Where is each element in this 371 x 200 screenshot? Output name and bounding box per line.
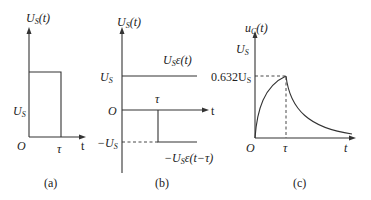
panel-a: US(t) US O τ t (a) <box>13 11 86 190</box>
y-axis-arrow-icon <box>27 27 32 34</box>
tau-label: τ <box>155 92 160 106</box>
discharging-curve <box>286 76 352 134</box>
y-axis-label: uC(t) <box>245 21 268 36</box>
x-axis-arrow-icon <box>202 108 209 113</box>
figure-canvas: US(t) US O τ t (a) US(t) USε(t) US τ O <box>0 0 371 200</box>
step-label: USε(t) <box>163 53 192 68</box>
negative-level-label: −US <box>97 136 118 151</box>
caption-c: (c) <box>293 176 306 190</box>
top-level-label: US <box>236 42 249 57</box>
origin-label: O <box>108 104 117 118</box>
peak-label: 0.632US <box>211 70 251 85</box>
origin-label: O <box>246 141 255 155</box>
rect-pulse <box>29 72 61 137</box>
y-axis-label: US(t) <box>117 15 141 30</box>
y-axis-label: US(t) <box>26 11 50 26</box>
x-axis-arrow-icon <box>349 136 356 141</box>
caption-b: (b) <box>155 176 169 190</box>
panel-c: uC(t) US 0.632US O τ t (c) <box>211 21 356 190</box>
x-axis-label: t <box>81 139 85 153</box>
tau-label: τ <box>283 141 288 155</box>
caption-a: (a) <box>44 176 57 190</box>
level-label: US <box>13 104 26 119</box>
origin-label: O <box>17 139 26 153</box>
negative-step-line <box>158 110 197 142</box>
panel-b: US(t) USε(t) US τ O t −US −USε(t−τ) (b) <box>97 15 215 190</box>
positive-level-label: US <box>100 70 113 85</box>
x-axis-label: t <box>211 104 215 118</box>
negative-step-label: −USε(t−τ) <box>164 151 213 166</box>
tau-label: τ <box>57 142 62 156</box>
x-axis-label: t <box>344 141 348 155</box>
charging-curve <box>255 76 286 138</box>
